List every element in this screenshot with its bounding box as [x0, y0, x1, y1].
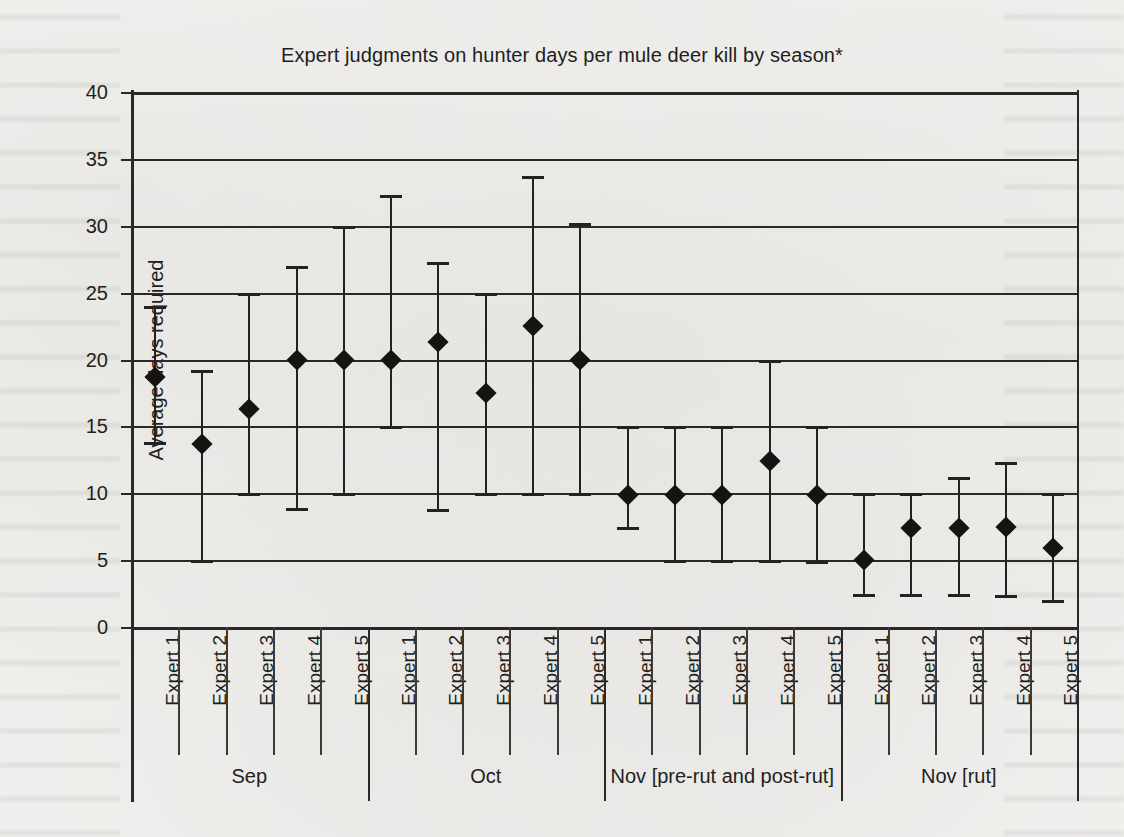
y-tick-15 — [121, 426, 133, 428]
whisker-cap-high — [948, 477, 970, 480]
x-tick-label-expert: Expert 4 — [304, 635, 326, 755]
x-tick-label-expert: Expert 5 — [587, 635, 609, 755]
y-tick-label-20: 20 — [48, 348, 108, 371]
cell-divider — [557, 627, 559, 755]
whisker-cap-high — [1042, 493, 1064, 496]
whisker-cap-high — [900, 493, 922, 496]
whisker-cap-low — [569, 493, 591, 496]
x-tick-label-expert: Expert 1 — [398, 635, 420, 755]
cell-divider — [462, 627, 464, 755]
whisker-cap-low — [664, 560, 686, 563]
whisker-cap-low — [238, 493, 260, 496]
y-tick-10 — [121, 493, 133, 495]
x-tick-label-expert: Expert 1 — [635, 635, 657, 755]
whisker-cap-low — [333, 493, 355, 496]
cell-divider — [651, 627, 653, 755]
y-tick-40 — [121, 92, 133, 94]
whisker-cap-low — [995, 595, 1017, 598]
range-bar — [296, 266, 298, 508]
y-tick-5 — [121, 560, 133, 562]
whisker-cap-low — [711, 560, 733, 563]
cell-divider — [699, 627, 701, 755]
whisker-cap-low — [853, 594, 875, 597]
cell-divider — [415, 627, 417, 755]
y-tick-label-30: 30 — [48, 214, 108, 237]
x-tick-label-expert: Expert 4 — [1013, 635, 1035, 755]
x-tick-label-expert: Expert 3 — [729, 635, 751, 755]
whisker-cap-low — [806, 561, 828, 564]
gridline-10 — [131, 493, 1077, 495]
whisker-cap-high — [995, 462, 1017, 465]
group-divider — [841, 627, 843, 801]
gridline-25 — [131, 293, 1077, 295]
x-tick-label-expert: Expert 3 — [256, 635, 278, 755]
whisker-cap-low — [380, 426, 402, 429]
whisker-cap-low — [191, 560, 213, 563]
whisker-cap-low — [427, 509, 449, 512]
range-bar — [201, 370, 203, 560]
x-tick-label-expert: Expert 4 — [540, 635, 562, 755]
x-tick-label-expert: Expert 5 — [1060, 635, 1082, 755]
y-tick-label-15: 15 — [48, 415, 108, 438]
group-divider — [368, 627, 370, 801]
y-tick-label-0: 0 — [48, 616, 108, 639]
whisker-cap-low — [617, 527, 639, 530]
gridline-35 — [131, 159, 1077, 161]
whisker-cap-high — [806, 426, 828, 429]
whisker-cap-high — [333, 226, 355, 229]
y-tick-label-40: 40 — [48, 81, 108, 104]
whisker-cap-high — [191, 370, 213, 373]
y-tick-35 — [121, 159, 133, 161]
x-tick-label-expert: Expert 1 — [162, 635, 184, 755]
group-divider — [604, 627, 606, 801]
whisker-cap-high — [522, 176, 544, 179]
x-axis-label-band: Expert 1Expert 2Expert 3Expert 4Expert 5… — [131, 627, 1077, 801]
cell-divider — [226, 627, 228, 755]
cell-divider — [888, 627, 890, 755]
whisker-cap-high — [617, 426, 639, 429]
cell-divider — [320, 627, 322, 755]
x-tick-label-expert: Expert 2 — [209, 635, 231, 755]
whisker-cap-high — [380, 195, 402, 198]
cell-divider — [1030, 627, 1032, 755]
whisker-cap-low — [475, 493, 497, 496]
y-tick-30 — [121, 226, 133, 228]
y-tick-label-5: 5 — [48, 549, 108, 572]
whisker-cap-high — [144, 306, 166, 309]
x-group-label: Sep — [231, 765, 267, 788]
cell-divider — [935, 627, 937, 755]
whisker-cap-high — [569, 223, 591, 226]
chart-title: Expert judgments on hunter days per mule… — [0, 44, 1124, 67]
gridline-5 — [131, 560, 1077, 562]
x-group-label: Oct — [470, 765, 501, 788]
gridline-20 — [131, 360, 1077, 362]
whisker-cap-high — [427, 262, 449, 265]
cell-divider — [509, 627, 511, 755]
cell-divider — [793, 627, 795, 755]
x-tick-label-expert: Expert 5 — [824, 635, 846, 755]
cell-divider — [273, 627, 275, 755]
x-tick-label-expert: Expert 3 — [493, 635, 515, 755]
cell-divider — [982, 627, 984, 755]
y-tick-label-10: 10 — [48, 482, 108, 505]
gridline-30 — [131, 226, 1077, 228]
range-bar — [437, 262, 439, 509]
whisker-cap-low — [522, 493, 544, 496]
whisker-cap-high — [711, 426, 733, 429]
range-bar — [390, 195, 392, 426]
x-tick-label-expert: Expert 2 — [682, 635, 704, 755]
whisker-cap-high — [238, 293, 260, 296]
x-tick-label-expert: Expert 2 — [918, 635, 940, 755]
x-tick-label-expert: Expert 1 — [871, 635, 893, 755]
cell-divider — [746, 627, 748, 755]
chart-page: Expert judgments on hunter days per mule… — [0, 0, 1124, 837]
range-bar — [910, 493, 912, 593]
whisker-cap-high — [664, 426, 686, 429]
y-tick-label-35: 35 — [48, 147, 108, 170]
whisker-cap-low — [1042, 600, 1064, 603]
x-tick-label-expert: Expert 2 — [445, 635, 467, 755]
y-tick-label-25: 25 — [48, 281, 108, 304]
x-tick-label-expert: Expert 4 — [777, 635, 799, 755]
y-tick-25 — [121, 293, 133, 295]
cell-divider — [178, 627, 180, 755]
